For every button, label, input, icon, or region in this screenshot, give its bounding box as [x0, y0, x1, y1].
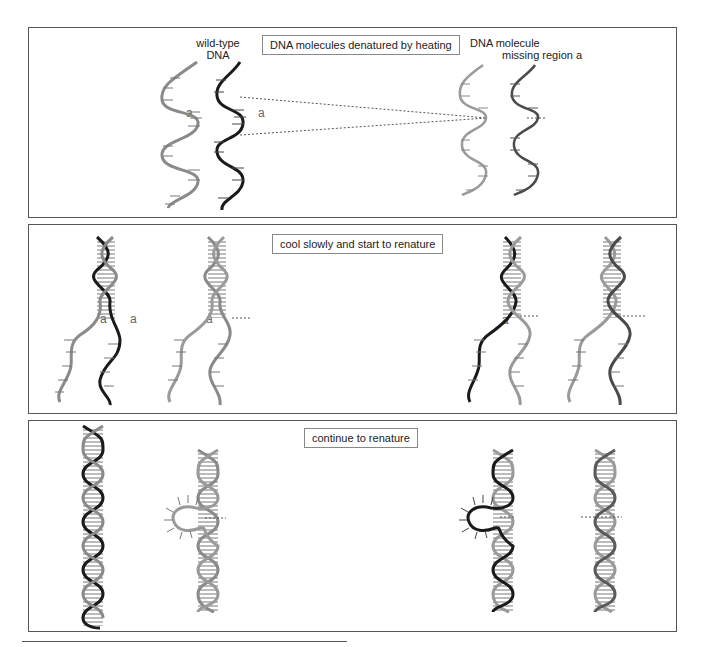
loop-bases — [164, 495, 198, 539]
p2-helix-mutant-mutant — [568, 237, 645, 405]
p2-helix-wt-wt — [55, 237, 120, 405]
p3-helix-mutant-mutant — [581, 450, 622, 612]
p3-helix-mutant-wt-loop — [459, 450, 516, 612]
region-a-projection-lines — [240, 97, 487, 135]
wt-single-strand-light — [162, 62, 202, 208]
mutant-single-strand-dark — [510, 65, 545, 195]
p2-helix-mutant-wt — [468, 237, 540, 405]
p3-helix-wt-mutant-loop — [164, 450, 226, 612]
dna-artwork — [0, 0, 703, 647]
p2-helix-wt-mutant — [168, 237, 250, 405]
wt-single-strand-dark — [214, 62, 246, 210]
mutant-single-strand-light — [460, 65, 488, 195]
p3-helix-wt-wt — [83, 426, 103, 628]
